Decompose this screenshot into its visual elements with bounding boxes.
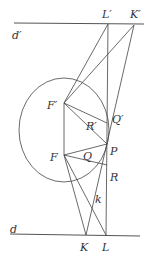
line-d-prime <box>14 23 144 24</box>
label-K-prime: K′ <box>129 8 141 21</box>
label-F: F <box>49 151 58 164</box>
segment-F-K <box>64 155 86 235</box>
label-K: K <box>79 241 89 254</box>
label-F-prime: F′ <box>46 99 58 112</box>
label-k: k <box>95 193 102 206</box>
label-L: L <box>101 241 109 254</box>
label-R: R <box>109 171 118 184</box>
label-d-prime: d′ <box>12 29 22 42</box>
geometry-diagram: d′ L′ K′ F′ Q′ R′ F Q P R k d K L <box>0 0 153 262</box>
label-L-prime: L′ <box>101 8 112 21</box>
label-d: d <box>10 223 17 236</box>
label-P: P <box>109 145 118 158</box>
label-Q: Q <box>83 150 92 163</box>
line-K-prime-F-prime <box>64 25 134 103</box>
line-L-prime-F-prime <box>64 24 108 103</box>
label-Q-prime: Q′ <box>112 113 124 126</box>
line-d <box>10 234 140 236</box>
label-R-prime: R′ <box>85 120 97 133</box>
